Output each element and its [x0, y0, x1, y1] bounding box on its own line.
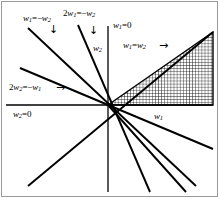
label-w1-eq-neg-w2-op: =− [32, 13, 42, 23]
label-w2-eq-0-zero: 0 [27, 109, 31, 119]
figure-canvas [0, 0, 219, 198]
label-axis-w2: w2 [93, 44, 102, 54]
label-axis-w1: w1 [154, 112, 163, 122]
label-w1-eq-0-zero: 0 [127, 20, 131, 30]
label-2w2-eq-neg-w1-op: =− [22, 82, 32, 92]
label-2w2-eq-neg-w1-sub2: 1 [38, 85, 41, 92]
line-arrangement-figure: w1=−w2 ↓ 2w1=−w2 ↓ w1=0 w2 w1=w2 → 2w2=−… [0, 0, 219, 198]
label-w1-eq-w2-sub2: 2 [143, 43, 146, 50]
label-axis-w2-sub: 2 [99, 46, 102, 53]
label-line-w1-eq-neg-w2: w1=−w2 [23, 14, 51, 24]
arrow-down-icon-w1-eq-neg-w2: ↓ [49, 24, 58, 35]
arrow-right-icon-2w2-eq-neg-w1: → [56, 82, 65, 93]
arrow-down-icon-2w1-eq-neg-w2: ↓ [89, 25, 98, 36]
arrow-right-icon-w1-eq-w2: → [159, 40, 168, 51]
label-axis-w1-sub: 1 [160, 114, 163, 121]
label-line-w1-eq-w2: w1=w2 [123, 41, 146, 51]
label-axis-w1-eq-0: w1=0 [113, 21, 131, 31]
label-line-2w1-eq-neg-w2: 2w1=−w2 [63, 9, 95, 19]
label-axis-w2-eq-0: w2=0 [13, 110, 31, 120]
label-2w1-eq-neg-w2-op: =− [76, 8, 86, 18]
label-line-2w2-eq-neg-w1: 2w2=−w1 [9, 83, 41, 93]
label-2w1-eq-neg-w2-sub2: 2 [92, 11, 95, 18]
